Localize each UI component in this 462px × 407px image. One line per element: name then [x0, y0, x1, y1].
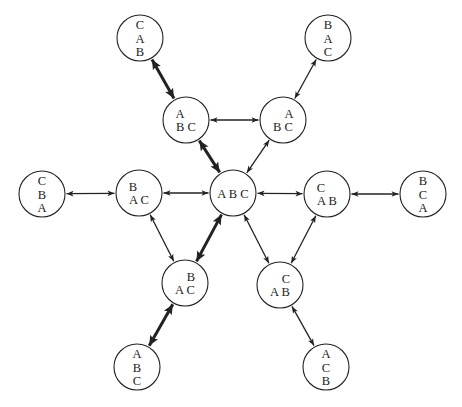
node-label-line: A	[135, 32, 144, 46]
node-label-line: C	[317, 181, 325, 195]
state-node: CAB	[117, 15, 163, 61]
state-node: BAC	[305, 15, 351, 61]
node-label-line: C	[136, 18, 144, 32]
node-label-line: B	[419, 174, 427, 188]
edge-arrow	[244, 215, 269, 263]
double-arrow	[150, 215, 174, 261]
node-label-line: A	[37, 201, 46, 215]
edge-arrow	[149, 304, 173, 345]
node-label-line: B	[187, 270, 195, 284]
node-label-line: C	[38, 174, 46, 188]
node-label-line: C	[282, 272, 290, 286]
edge-arrow	[291, 216, 316, 263]
edge-arrow	[152, 59, 174, 98]
node-label-line: B C	[273, 120, 293, 134]
heavy-double-arrow	[152, 59, 174, 98]
node-label-line: B	[38, 188, 46, 202]
edge-arrow	[292, 306, 314, 345]
node-label-line: A	[132, 347, 141, 361]
edge-arrow	[197, 215, 222, 262]
edge-arrow	[150, 215, 174, 261]
state-node: CBA	[19, 171, 65, 217]
double-arrow	[292, 306, 314, 345]
edge-arrow	[295, 60, 316, 99]
heavy-double-arrow	[149, 304, 173, 345]
heavy-double-arrow	[199, 141, 219, 173]
node-label-line: C	[322, 361, 330, 375]
node-label-line: A B	[317, 194, 337, 208]
double-arrow	[291, 216, 316, 263]
node-label-line: A	[323, 32, 332, 46]
double-arrow	[247, 140, 269, 173]
heavy-double-arrow	[197, 215, 222, 262]
state-node: A B C	[210, 170, 256, 216]
node-label-line: B C	[176, 120, 196, 134]
state-node: BCA	[400, 171, 446, 217]
node-label-line: A B	[270, 285, 290, 299]
state-node: CA B	[304, 171, 350, 217]
state-node: BA C	[162, 260, 208, 306]
node-label-line: B	[136, 45, 144, 59]
node-label-line: C	[133, 374, 141, 388]
state-node: ABC	[114, 344, 160, 390]
node-label-line: A C	[175, 283, 195, 297]
node-label-line: B	[324, 18, 332, 32]
edge-arrow	[247, 140, 269, 173]
nodes-layer: CABBACAB CAB CCBABA CA B CCA BBCABA CCA …	[19, 15, 446, 390]
node-label-line: C	[419, 188, 427, 202]
state-node: AB C	[163, 97, 209, 143]
edge-arrow	[199, 141, 219, 173]
node-label-line: B	[129, 180, 137, 194]
state-node: ACB	[303, 344, 349, 390]
state-graph: CABBACAB CAB CCBABA CA B CCA BBCABA CCA …	[0, 0, 462, 407]
node-label-line: A	[321, 347, 330, 361]
node-label-line: A	[418, 201, 427, 215]
node-label-line: B	[322, 374, 330, 388]
state-node: AB C	[260, 97, 306, 143]
node-label-line: A	[175, 107, 184, 121]
node-label-line: B	[133, 361, 141, 375]
node-label-line: A	[284, 107, 293, 121]
double-arrow	[244, 215, 269, 263]
node-label-line: A C	[129, 193, 149, 207]
state-node: BA C	[116, 170, 162, 216]
node-label-line: A B C	[217, 187, 248, 201]
double-arrow	[295, 60, 316, 99]
state-node: CA B	[257, 262, 303, 308]
node-label-line: C	[324, 45, 332, 59]
